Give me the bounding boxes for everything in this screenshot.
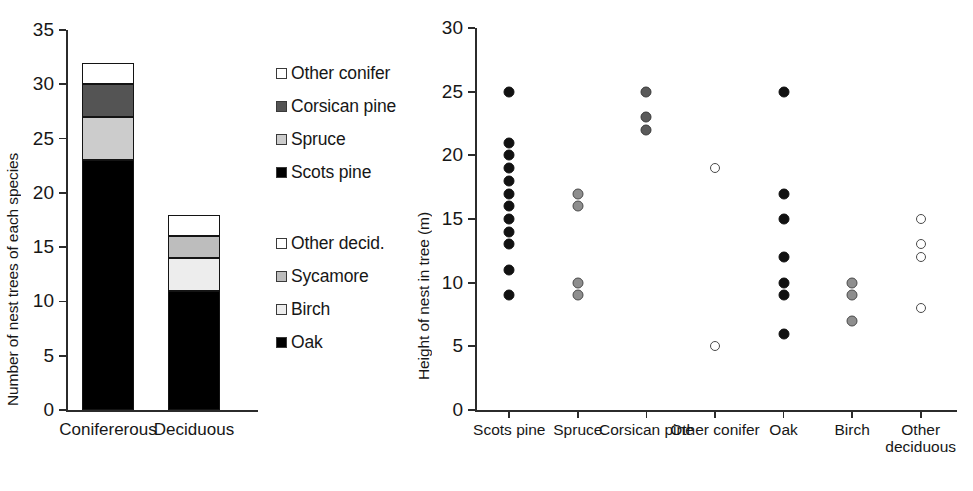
bar-x-tick-label: Deciduous bbox=[109, 420, 279, 439]
bar-segment bbox=[168, 291, 220, 410]
scatter-point bbox=[778, 277, 789, 288]
scatter-point bbox=[916, 239, 926, 249]
bar-segment bbox=[82, 84, 134, 117]
scatter-y-tick bbox=[468, 282, 475, 284]
scatter-point bbox=[778, 188, 789, 199]
scatter-y-tick-label: 5 bbox=[429, 336, 463, 355]
scatter-point bbox=[504, 239, 515, 250]
scatter-point bbox=[504, 150, 515, 161]
legend-label: Birch bbox=[291, 299, 330, 320]
legend-entry: Birch bbox=[276, 293, 385, 326]
scatter-point bbox=[916, 303, 926, 313]
scatter-point bbox=[847, 290, 858, 301]
scatter-point bbox=[504, 163, 515, 174]
scatter-point bbox=[847, 315, 858, 326]
bar-segment bbox=[168, 215, 220, 237]
bar-y-tick-label: 25 bbox=[20, 129, 54, 148]
scatter-y-tick bbox=[468, 154, 475, 156]
bar-segment bbox=[168, 236, 220, 258]
scatter-point bbox=[778, 214, 789, 225]
stacked-bar bbox=[82, 30, 134, 410]
bar-y-tick bbox=[59, 246, 66, 248]
bar-y-axis-line bbox=[66, 30, 68, 411]
bar-y-tick bbox=[59, 301, 66, 303]
bar-segment bbox=[82, 63, 134, 85]
legend-label: Sycamore bbox=[291, 266, 369, 287]
scatter-point bbox=[847, 277, 858, 288]
bar-segment bbox=[168, 258, 220, 291]
scatter-y-tick-label: 25 bbox=[429, 82, 463, 101]
legend-label: Spruce bbox=[291, 129, 346, 150]
legend-entry: Sycamore bbox=[276, 260, 385, 293]
legend-label: Other conifer bbox=[291, 63, 390, 84]
stacked-bar-chart: Number of nest trees of each species 051… bbox=[0, 0, 420, 491]
scatter-y-tick-label: 15 bbox=[429, 209, 463, 228]
scatter-point bbox=[504, 214, 515, 225]
scatter-point bbox=[504, 201, 515, 212]
legend-label: Corsican pine bbox=[291, 96, 396, 117]
scatter-y-tick-label: 10 bbox=[429, 273, 463, 292]
bar-segment bbox=[82, 117, 134, 160]
scatter-point bbox=[916, 214, 926, 224]
scatter-y-tick-label: 30 bbox=[429, 18, 463, 37]
scatter-point bbox=[916, 252, 926, 262]
scatter-y-tick bbox=[468, 409, 475, 411]
scatter-x-axis-line bbox=[475, 410, 957, 412]
bar-y-tick-label: 0 bbox=[20, 400, 54, 419]
scatter-point bbox=[504, 188, 515, 199]
bar-y-tick-label: 10 bbox=[20, 291, 54, 310]
bar-y-tick-label: 15 bbox=[20, 237, 54, 256]
bar-y-tick bbox=[59, 355, 66, 357]
scatter-y-tick bbox=[468, 91, 475, 93]
scatter-point bbox=[641, 124, 652, 135]
scatter-point bbox=[778, 328, 789, 339]
bar-segment bbox=[82, 160, 134, 410]
legend-label: Oak bbox=[291, 332, 323, 353]
legend-swatch-icon bbox=[276, 101, 287, 112]
legend-entry: Oak bbox=[276, 326, 385, 359]
scatter-point bbox=[572, 277, 583, 288]
legend-swatch-icon bbox=[276, 134, 287, 145]
legend-label: Other decid. bbox=[291, 233, 385, 254]
legend-entry: Scots pine bbox=[276, 156, 396, 189]
scatter-point bbox=[641, 86, 652, 97]
scatter-point bbox=[504, 86, 515, 97]
bar-y-tick bbox=[59, 83, 66, 85]
legend-swatch-icon bbox=[276, 238, 287, 249]
bar-y-tick-label: 30 bbox=[20, 74, 54, 93]
scatter-y-tick bbox=[468, 345, 475, 347]
scatter-point bbox=[710, 341, 720, 351]
legend-swatch-icon bbox=[276, 271, 287, 282]
legend-swatch-icon bbox=[276, 167, 287, 178]
scatter-y-tick bbox=[468, 27, 475, 29]
scatter-x-tick-label: Other deciduous bbox=[873, 421, 969, 456]
bar-y-tick bbox=[59, 138, 66, 140]
scatter-y-axis-line bbox=[475, 28, 477, 411]
legend-entry: Other conifer bbox=[276, 57, 396, 90]
legend-swatch-icon bbox=[276, 68, 287, 79]
bar-y-tick bbox=[59, 29, 66, 31]
scatter-point bbox=[778, 86, 789, 97]
scatter-point bbox=[778, 252, 789, 263]
legend-deciduous: Other decid.SycamoreBirchOak bbox=[276, 227, 385, 359]
scatter-point bbox=[504, 264, 515, 275]
legend-entry: Spruce bbox=[276, 123, 396, 156]
scatter-point bbox=[504, 175, 515, 186]
scatter-point bbox=[641, 112, 652, 123]
scatter-plot-area bbox=[475, 28, 955, 410]
scatter-y-tick bbox=[468, 218, 475, 220]
scatter-point bbox=[572, 290, 583, 301]
bar-x-axis-line bbox=[66, 410, 258, 412]
scatter-point bbox=[572, 188, 583, 199]
legend-swatch-icon bbox=[276, 337, 287, 348]
scatter-point bbox=[778, 290, 789, 301]
bar-y-tick bbox=[59, 409, 66, 411]
legend-conifer: Other coniferCorsican pineSpruceScots pi… bbox=[276, 57, 396, 189]
scatter-point bbox=[504, 137, 515, 148]
legend-entry: Corsican pine bbox=[276, 90, 396, 123]
legend-label: Scots pine bbox=[291, 162, 371, 183]
scatter-point bbox=[504, 290, 515, 301]
bar-y-tick-label: 5 bbox=[20, 346, 54, 365]
scatter-point bbox=[504, 226, 515, 237]
nest-height-scatter-chart: Height of nest in tree (m) 051015202530 … bbox=[405, 0, 973, 491]
